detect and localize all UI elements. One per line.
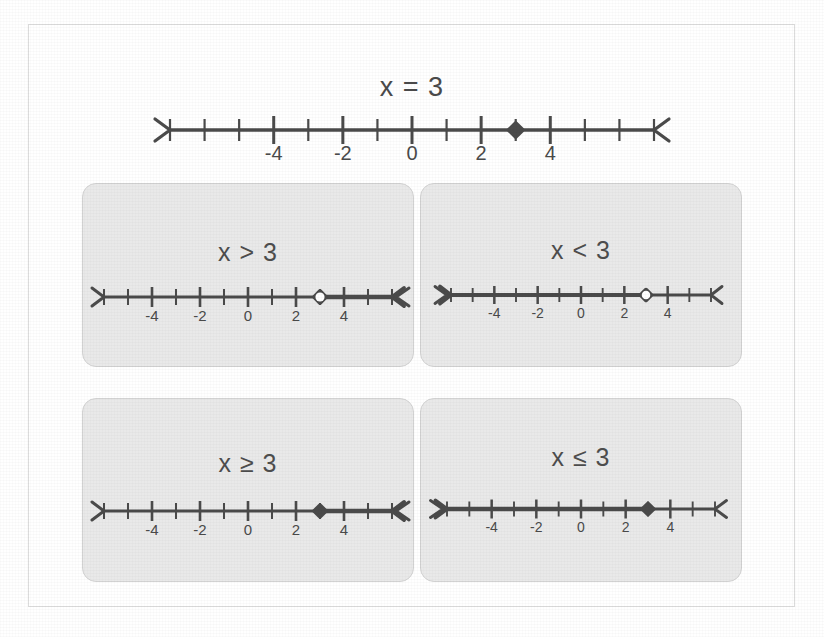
svg-text:4: 4: [340, 521, 348, 538]
svg-text:4: 4: [545, 142, 556, 164]
svg-text:-4: -4: [265, 142, 283, 164]
svg-text:2: 2: [622, 519, 630, 535]
panel-numberline: -4-2024: [421, 277, 741, 333]
svg-text:-4: -4: [485, 519, 498, 535]
svg-text:0: 0: [406, 142, 417, 164]
svg-text:-4: -4: [145, 521, 158, 538]
panel-less-than[interactable]: x < 3 -4-2024: [420, 183, 742, 367]
panel-title: x < 3: [421, 236, 741, 265]
headline-title: x = 3: [150, 72, 674, 103]
panel-title: x > 3: [83, 238, 413, 267]
svg-text:0: 0: [244, 521, 252, 538]
svg-text:-2: -2: [530, 519, 543, 535]
svg-text:0: 0: [577, 519, 585, 535]
panel-numberline: -4-2024: [421, 491, 741, 547]
svg-text:2: 2: [292, 521, 300, 538]
svg-text:4: 4: [340, 307, 348, 324]
headline-block: x = 3 -4-2024: [150, 72, 674, 172]
svg-text:-2: -2: [193, 521, 206, 538]
panel-less-or-equal[interactable]: x ≤ 3 -4-2024: [420, 398, 742, 582]
svg-text:0: 0: [244, 307, 252, 324]
svg-text:2: 2: [292, 307, 300, 324]
panel-numberline: -4-2024: [83, 279, 413, 335]
panel-greater-or-equal[interactable]: x ≥ 3 -4-2024: [82, 398, 414, 582]
svg-text:4: 4: [666, 519, 674, 535]
svg-text:0: 0: [577, 305, 585, 321]
svg-text:-4: -4: [488, 305, 501, 321]
svg-text:-2: -2: [531, 305, 544, 321]
svg-text:-2: -2: [334, 142, 352, 164]
panel-title: x ≤ 3: [421, 443, 741, 472]
headline-numberline: -4-2024: [150, 110, 674, 172]
svg-text:2: 2: [476, 142, 487, 164]
panel-title: x ≥ 3: [83, 449, 413, 478]
svg-text:-4: -4: [145, 307, 158, 324]
svg-text:-2: -2: [193, 307, 206, 324]
panel-numberline: -4-2024: [83, 493, 413, 549]
svg-text:2: 2: [620, 305, 628, 321]
panel-greater-than[interactable]: x > 3 -4-2024: [82, 183, 414, 367]
svg-text:4: 4: [664, 305, 672, 321]
